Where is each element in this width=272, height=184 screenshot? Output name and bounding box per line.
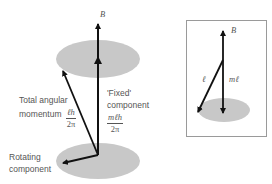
fixed-fraction: mℓh 2π bbox=[107, 113, 123, 133]
fixed-label-line2: component bbox=[107, 101, 149, 110]
fixed-fraction-den: 2π bbox=[111, 124, 120, 134]
rotating-label-line1: Rotating bbox=[9, 153, 41, 162]
total-label-line2: momentum bbox=[19, 110, 62, 119]
rotating-label-line2: component bbox=[9, 165, 51, 174]
inset-field-label-b: B bbox=[231, 26, 236, 35]
field-label-b: B bbox=[100, 10, 105, 19]
inset-vector-label: ℓ bbox=[202, 75, 206, 84]
total-label-line1: Total angular bbox=[19, 96, 68, 105]
fixed-label-line1: 'Fixed' bbox=[107, 89, 131, 98]
total-fraction-den: 2π bbox=[67, 119, 76, 129]
inset-ellipse bbox=[198, 98, 250, 122]
fixed-fraction-num: mℓh bbox=[107, 113, 123, 124]
inset-projection-label: mℓ bbox=[229, 75, 239, 84]
total-fraction: ℓh 2π bbox=[66, 108, 76, 128]
total-fraction-num: ℓh bbox=[66, 108, 76, 119]
